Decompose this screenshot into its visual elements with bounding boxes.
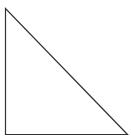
triangle-diagram [0,0,131,138]
right-triangle [6,9,128,135]
